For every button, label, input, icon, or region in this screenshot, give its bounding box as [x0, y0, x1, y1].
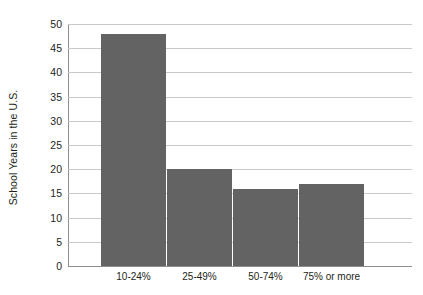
y-axis-tick-label: 35 — [36, 92, 62, 102]
y-axis-tick-label: 45 — [36, 43, 62, 53]
bar — [101, 34, 166, 266]
y-axis-tick-label: 10 — [36, 213, 62, 223]
bar-chart: School Years in the U.S. 051015202530354… — [0, 0, 423, 295]
bars — [68, 24, 412, 266]
y-axis-tick-label: 0 — [36, 261, 62, 271]
y-axis-tick-label: 50 — [36, 19, 62, 29]
bar — [299, 184, 364, 266]
y-axis-tick-label: 20 — [36, 164, 62, 174]
y-axis-tick-label: 15 — [36, 188, 62, 198]
bar — [167, 169, 232, 266]
x-axis-tick-labels: 10-24%25-49%50-74%75% or more — [68, 268, 412, 286]
y-axis-tick-label: 25 — [36, 140, 62, 150]
y-axis-tick-label: 5 — [36, 237, 62, 247]
y-axis-tick-labels: 05101520253035404550 — [30, 24, 62, 266]
y-axis-title: School Years in the U.S. — [0, 0, 26, 295]
x-axis-tick-label: 75% or more — [287, 271, 376, 283]
gridline — [68, 266, 412, 267]
y-axis-tick-label: 40 — [36, 67, 62, 77]
y-axis-tick-label: 30 — [36, 116, 62, 126]
bar — [233, 189, 298, 266]
plot-area — [68, 24, 412, 266]
